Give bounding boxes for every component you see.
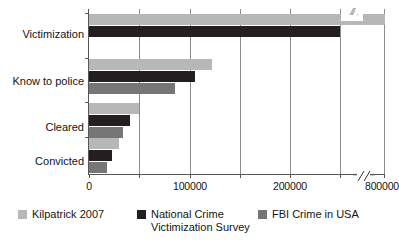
plot-area: 0 100000 200000 800000 <box>89 9 385 174</box>
bar-convicted-fbi <box>89 162 107 173</box>
legend-item-fbi-crime-in-usa: FBI Crime in USA <box>258 208 359 221</box>
legend-item-kilpatrick-2007: Kilpatrick 2007 <box>18 208 104 221</box>
legend-label-ncvs: National Crime Victimization Survey <box>151 208 250 233</box>
category-label-know-to-police: Know to police <box>0 75 84 87</box>
xtick-50000 <box>139 174 140 178</box>
axis-break-zigzag-icon <box>341 8 363 21</box>
category-label-cleared: Cleared <box>0 121 84 133</box>
bar-know-to-police-ncvs <box>89 71 195 82</box>
xticklabel-0: 0 <box>86 180 92 192</box>
category-label-victimization: Victimization <box>0 28 84 40</box>
xtick-150000 <box>240 174 241 178</box>
category-label-convicted: Convicted <box>0 155 84 167</box>
legend-label-kilpatrick-2007: Kilpatrick 2007 <box>32 208 104 221</box>
gridline-250000 <box>340 9 341 174</box>
bar-cleared-kilpatrick-2007 <box>89 103 139 114</box>
bar-convicted-kilpatrick-2007 <box>89 138 119 149</box>
bar-know-to-police-kilpatrick-2007 <box>89 59 212 70</box>
bar-cleared-ncvs <box>89 115 130 126</box>
bar-victimization-ncvs <box>89 26 340 37</box>
xtick-800000 <box>384 174 385 178</box>
legend-swatch-ncvs <box>137 210 146 219</box>
legend-label-fbi-crime-in-usa: FBI Crime in USA <box>272 208 359 221</box>
category-axis-labels: Victimization Know to police Cleared Con… <box>0 9 84 174</box>
xtick-250000 <box>340 174 341 178</box>
bar-know-to-police-fbi <box>89 83 175 94</box>
legend-swatch-kilpatrick-2007 <box>18 210 27 219</box>
bar-cleared-fbi <box>89 127 123 138</box>
xticklabel-200000: 200000 <box>273 180 307 192</box>
xtick-200000 <box>290 174 291 178</box>
legend-item-ncvs: National Crime Victimization Survey <box>137 208 250 233</box>
bar-convicted-ncvs <box>89 150 112 161</box>
xtick-100000 <box>190 174 191 178</box>
chart-legend: Kilpatrick 2007 National Crime Victimiza… <box>0 200 396 242</box>
xtick-0 <box>89 174 90 178</box>
gridline-800000 <box>384 9 385 174</box>
xticklabel-100000: 100000 <box>173 180 207 192</box>
xticklabel-800000: 800000 <box>365 180 399 192</box>
legend-swatch-fbi-crime-in-usa <box>258 210 267 219</box>
